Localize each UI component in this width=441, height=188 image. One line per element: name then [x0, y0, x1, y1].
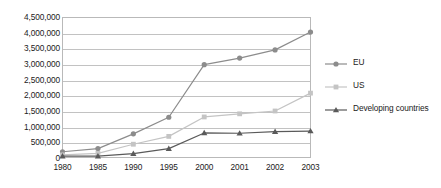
- square-marker-icon: [325, 79, 347, 91]
- x-axis-tick-label: 2000: [195, 162, 213, 172]
- legend-item-label: US: [353, 80, 364, 90]
- data-point-marker: [334, 84, 339, 89]
- legend-item-developing-countries[interactable]: Developing countries: [325, 96, 441, 119]
- x-axis-tick-label: 1990: [124, 162, 142, 172]
- x-axis: 19801985199019952000200120022003: [62, 162, 311, 178]
- series-layer: [62, 17, 311, 158]
- x-axis-tick-label: 2001: [231, 162, 249, 172]
- y-axis-tick-label: 0: [2, 153, 60, 163]
- y-axis-tick-label: 2,000,000: [2, 90, 60, 100]
- data-point-marker: [202, 115, 207, 120]
- y-axis-tick-label: 3,000,000: [2, 59, 60, 69]
- data-point-marker: [202, 62, 207, 67]
- x-axis-tick-label: 2003: [301, 162, 319, 172]
- chart-legend: EUUSDeveloping countries: [325, 50, 441, 119]
- data-point-marker: [166, 115, 171, 120]
- x-axis-tick-label: 1995: [160, 162, 178, 172]
- y-axis-tick-label: 500,000: [2, 137, 60, 147]
- y-axis-tick-label: 2,500,000: [2, 75, 60, 85]
- series-eu: [60, 29, 313, 154]
- data-point-marker: [131, 142, 136, 147]
- data-point-marker: [166, 134, 171, 139]
- legend-item-label: EU: [353, 57, 364, 67]
- triangle-marker-icon: [325, 102, 347, 114]
- data-point-marker: [308, 91, 313, 96]
- y-axis-tick-label: 1,000,000: [2, 122, 60, 132]
- y-axis-tick-label: 3,500,000: [2, 43, 60, 53]
- line-chart: 4,500,0004,000,0003,500,0003,000,0002,50…: [0, 0, 441, 188]
- legend-item-eu[interactable]: EU: [325, 50, 441, 73]
- data-point-marker: [237, 111, 242, 116]
- series-line: [63, 93, 311, 155]
- x-axis-tick-label: 1980: [53, 162, 71, 172]
- data-point-marker: [95, 146, 100, 151]
- data-point-marker: [131, 131, 136, 136]
- y-axis-tick-label: 1,500,000: [2, 106, 60, 116]
- data-point-marker: [308, 29, 313, 34]
- y-axis-tick-label: 4,500,000: [2, 12, 60, 22]
- x-axis-tick-label: 2002: [266, 162, 284, 172]
- legend-item-us[interactable]: US: [325, 73, 441, 96]
- data-point-marker: [237, 55, 242, 60]
- x-axis-tick-label: 1985: [89, 162, 107, 172]
- y-axis-tick-label: 4,000,000: [2, 28, 60, 38]
- y-axis: 4,500,0004,000,0003,500,0003,000,0002,50…: [0, 17, 60, 158]
- data-point-marker: [333, 61, 338, 66]
- circle-marker-icon: [325, 56, 347, 68]
- data-point-marker: [273, 109, 278, 114]
- data-point-marker: [272, 47, 277, 52]
- series-developing-countries: [59, 128, 313, 158]
- legend-item-label: Developing countries: [353, 103, 428, 113]
